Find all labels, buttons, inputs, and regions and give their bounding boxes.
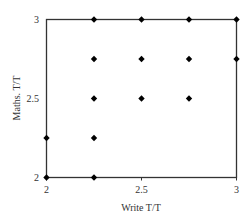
x-axis-ticks: 22.53 <box>44 178 239 196</box>
diamond-marker <box>91 174 97 180</box>
diamond-marker <box>43 135 49 141</box>
diamond-marker <box>233 16 239 22</box>
x-tick-label: 2.5 <box>135 184 148 195</box>
y-tick-label: 2.5 <box>27 93 40 104</box>
diamond-marker <box>91 16 97 22</box>
y-tick-label: 2 <box>34 172 39 183</box>
y-tick-label: 3 <box>34 14 39 25</box>
data-points <box>43 16 239 180</box>
diamond-marker <box>91 56 97 62</box>
diamond-marker <box>138 95 144 101</box>
y-axis-ticks: 22.53 <box>27 14 40 183</box>
diamond-marker <box>233 56 239 62</box>
y-axis-label: Maths. T/T <box>11 76 22 121</box>
x-tick-label: 2 <box>44 184 49 195</box>
diamond-marker <box>91 95 97 101</box>
x-tick-label: 3 <box>234 184 239 195</box>
diamond-marker <box>138 56 144 62</box>
diamond-marker <box>91 135 97 141</box>
diamond-marker <box>186 16 192 22</box>
diamond-marker <box>138 16 144 22</box>
diamond-marker <box>186 95 192 101</box>
scatter-chart: 22.53 22.53 Write T/T Maths. T/T <box>0 0 251 221</box>
diamond-marker <box>43 174 49 180</box>
x-axis-label: Write T/T <box>121 202 161 213</box>
diamond-marker <box>186 56 192 62</box>
